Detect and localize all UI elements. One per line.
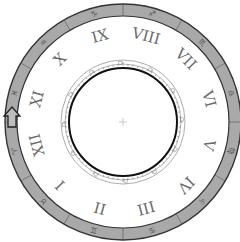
numeral-v: V (199, 137, 220, 154)
numeral-iv: IV (173, 173, 198, 198)
numeral-viii: VIII (129, 23, 162, 48)
numeral-xi: XI (26, 89, 48, 110)
numeral-ii: II (92, 198, 108, 218)
clock-dial: ♈♉♊♋♌♍♎♏♐♑♒♓ XIIIIIIIIIVVVIVIIVIIIIXXXI (0, 0, 240, 242)
numeral-ix: IX (90, 25, 111, 47)
numeral-vii: VII (171, 44, 201, 74)
numeral-x: X (50, 49, 71, 70)
numeral-iii: III (135, 197, 157, 219)
numeral-xii: XII (25, 132, 48, 158)
numeral-vi: VI (198, 88, 220, 110)
numeral-i: I (52, 176, 69, 193)
